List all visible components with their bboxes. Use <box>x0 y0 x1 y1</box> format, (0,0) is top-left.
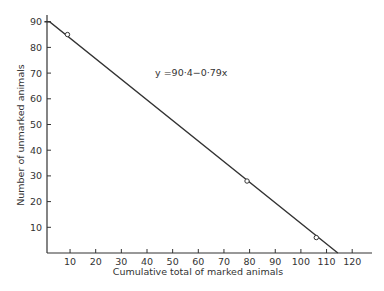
plot-area <box>44 22 337 253</box>
y-axis-title: Number of unmarked animals <box>15 64 26 206</box>
y-tick-label: 70 <box>30 68 42 79</box>
y-tick-label: 30 <box>30 170 42 181</box>
y-tick-label: 20 <box>30 196 42 207</box>
y-ticks: 102030405060708090 <box>30 16 51 233</box>
data-point <box>314 235 318 239</box>
axes <box>47 15 372 253</box>
x-ticks: 102030405060708090100110120 <box>64 249 361 267</box>
y-tick-label: 40 <box>30 145 42 156</box>
x-tick-label: 20 <box>90 256 102 267</box>
data-point <box>245 179 249 183</box>
regression-equation: y =90·4−0·79x <box>155 67 228 78</box>
regression-chart: 102030405060708090100110120 102030405060… <box>0 0 384 291</box>
regression-line <box>44 22 337 253</box>
y-tick-label: 10 <box>30 222 42 233</box>
x-axis-title: Cumulative total of marked animals <box>113 266 283 277</box>
data-point <box>65 32 69 36</box>
y-tick-label: 60 <box>30 93 42 104</box>
y-tick-label: 50 <box>30 119 42 130</box>
x-tick-label: 100 <box>292 256 310 267</box>
y-tick-label: 90 <box>30 16 42 27</box>
x-tick-label: 10 <box>64 256 76 267</box>
x-tick-label: 110 <box>317 256 335 267</box>
x-tick-label: 120 <box>343 256 361 267</box>
y-tick-label: 80 <box>30 42 42 53</box>
